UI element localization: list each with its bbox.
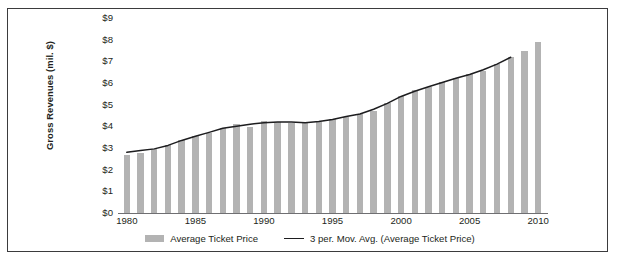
y-axis-tick-2: $2 [83,165,113,175]
legend-label-average-ticket-price: Average Ticket Price [170,233,258,244]
moving-average-line-series [120,18,545,213]
bar-swatch-icon [145,235,164,242]
y-axis-tick-6: $6 [83,78,113,88]
x-axis-tick-1990: 1990 [244,216,284,226]
y-axis-tick-8: $8 [83,35,113,45]
plot-area [120,18,545,213]
legend-item-average-ticket-price: Average Ticket Price [145,233,258,244]
legend-item-moving-average: 3 per. Mov. Avg. (Average Ticket Price) [284,233,475,244]
y-axis-tick-3: $3 [83,143,113,153]
y-axis-tick-9: $9 [83,13,113,23]
y-axis-tick-5: $5 [83,100,113,110]
x-axis-tick-2005: 2005 [450,216,490,226]
chart-legend: Average Ticket Price 3 per. Mov. Avg. (A… [0,233,620,244]
legend-label-moving-average: 3 per. Mov. Avg. (Average Ticket Price) [310,233,475,244]
y-axis-tick-1: $1 [83,186,113,196]
x-axis-tick-1980: 1980 [107,216,147,226]
y-axis-title: Gross Revenues (mil. $) [44,21,55,171]
y-axis-tick-4: $4 [83,121,113,131]
x-axis-tick-2010: 2010 [518,216,558,226]
x-axis-tick-1995: 1995 [313,216,353,226]
moving-average-polyline [127,57,511,152]
x-axis-tick-1985: 1985 [175,216,215,226]
x-axis-line [118,213,548,214]
y-axis-tick-7: $7 [83,56,113,66]
bar-chart: Gross Revenues (mil. $) $0$1$2$3$4$5$6$7… [0,0,620,261]
line-swatch-icon [284,238,304,239]
x-axis-tick-2000: 2000 [381,216,421,226]
